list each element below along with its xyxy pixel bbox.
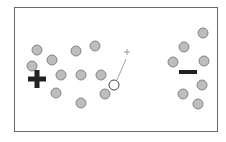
particle <box>76 98 86 108</box>
particle <box>199 56 209 66</box>
particle <box>32 45 42 55</box>
positive-plate-plus-icon <box>28 70 46 88</box>
trajectory-line <box>117 59 126 80</box>
target-crosshair-icon <box>124 49 130 55</box>
test-particle-open-circle <box>109 80 119 90</box>
particle <box>76 70 86 80</box>
particle <box>47 55 57 65</box>
particle <box>56 70 66 80</box>
negative-plate-minus-icon <box>179 70 197 74</box>
particle <box>51 88 61 98</box>
particle <box>197 80 207 90</box>
particle <box>179 42 189 52</box>
electric-field-diagram <box>0 0 226 142</box>
particle <box>27 61 37 71</box>
particle <box>100 89 110 99</box>
particle <box>96 70 106 80</box>
particle <box>71 46 81 56</box>
particle <box>90 41 100 51</box>
particle <box>198 28 208 38</box>
particles-group <box>27 28 209 109</box>
particle <box>168 57 178 67</box>
particle <box>178 89 188 99</box>
particle <box>193 99 203 109</box>
